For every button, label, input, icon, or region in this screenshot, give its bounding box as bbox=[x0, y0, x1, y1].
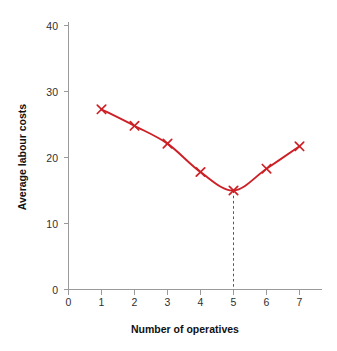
x-tick-label: 0 bbox=[66, 296, 72, 308]
chart-container: Average labour costs Number of operative… bbox=[0, 0, 337, 351]
x-tick-label: 2 bbox=[132, 296, 138, 308]
data-point-marker bbox=[163, 139, 171, 147]
data-point-marker bbox=[196, 168, 204, 176]
data-point-marker bbox=[130, 122, 138, 130]
x-tick-label: 7 bbox=[297, 296, 303, 308]
y-tick-label: 20 bbox=[46, 152, 58, 164]
y-tick-label: 30 bbox=[46, 86, 58, 98]
y-tick-label: 0 bbox=[52, 284, 58, 296]
y-tick-label: 40 bbox=[46, 20, 58, 32]
x-tick-label: 3 bbox=[165, 296, 171, 308]
y-tick-label: 10 bbox=[46, 218, 58, 230]
data-point-marker bbox=[262, 165, 270, 173]
y-axis-ticks: 40 30 20 10 0 bbox=[46, 20, 68, 296]
x-tick-label: 4 bbox=[198, 296, 204, 308]
line-chart: Average labour costs Number of operative… bbox=[0, 0, 337, 351]
x-tick-label: 1 bbox=[99, 296, 105, 308]
x-tick-label: 6 bbox=[264, 296, 270, 308]
data-point-marker bbox=[295, 142, 303, 150]
data-point-marker bbox=[97, 105, 105, 113]
x-axis-ticks: 0 1 2 3 4 5 6 7 bbox=[66, 290, 303, 309]
x-tick-label: 5 bbox=[231, 296, 237, 308]
data-point-markers bbox=[97, 105, 303, 195]
y-axis-title: Average labour costs bbox=[16, 104, 28, 211]
x-axis-title: Number of operatives bbox=[131, 323, 239, 335]
